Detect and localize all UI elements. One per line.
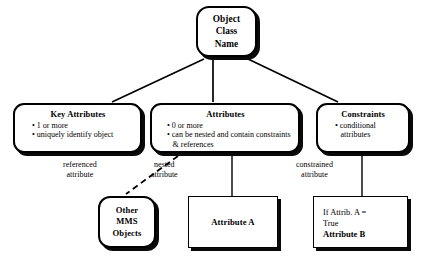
- node-key-attributes[interactable]: Key Attributes • 1 or more • uniquely id…: [13, 103, 142, 153]
- bullet-item: • 1 or more: [32, 121, 133, 131]
- bullet-item: • uniquely identify object: [32, 130, 133, 140]
- node-other-mms-objects-content: Other MMS Objects: [100, 198, 154, 246]
- edge-label-referenced-attribute-line-1: referenced: [63, 160, 97, 170]
- edge-label-nested-attribute-line-2: attribute: [151, 170, 178, 180]
- node-object-class-name-line-1: Object: [198, 13, 255, 25]
- bullet-item: • can be nested and contain constraints …: [167, 130, 291, 149]
- bullet-item: • conditional attributes: [335, 121, 402, 140]
- node-other-mms-objects-line-2: MMS: [100, 216, 154, 227]
- node-object-class-name-line-2: Class: [198, 25, 255, 37]
- bullet-glyph: •: [167, 130, 170, 139]
- bullet-glyph: •: [32, 130, 35, 139]
- edge-label-nested-attribute-line-1: nested: [151, 160, 178, 170]
- node-attributes[interactable]: Attributes • 0 or more • can be nested a…: [150, 103, 300, 153]
- node-other-mms-objects[interactable]: Other MMS Objects: [98, 196, 156, 248]
- node-object-class-name-content: Object Class Name: [198, 8, 255, 55]
- node-object-class-name-line-3: Name: [198, 38, 255, 50]
- bullet-text: 0 or more: [172, 121, 203, 130]
- bullet-glyph: •: [335, 121, 338, 130]
- node-attribute-a[interactable]: Attribute A: [188, 196, 278, 248]
- diagram-canvas: Object Class Name Key Attributes • 1 or …: [0, 0, 426, 262]
- node-key-attributes-content: Key Attributes • 1 or more • uniquely id…: [15, 105, 140, 151]
- bullet-text: conditional attributes: [340, 121, 376, 140]
- node-attribute-b-title: Attribute B: [323, 229, 407, 241]
- node-object-class-name[interactable]: Object Class Name: [196, 6, 257, 57]
- edge-label-constrained-attribute: constrained attribute: [296, 160, 333, 180]
- edge-label-referenced-attribute: referenced attribute: [63, 160, 97, 180]
- node-attribute-a-content: Attribute A: [189, 197, 277, 247]
- bullet-item: • 0 or more: [167, 121, 291, 131]
- node-attributes-title: Attributes: [160, 109, 291, 120]
- node-attribute-b-content: If Attrib. A = True Attribute B: [314, 197, 407, 247]
- bullet-text: uniquely identify object: [37, 130, 113, 139]
- node-constraints-title: Constraints: [324, 109, 402, 120]
- bullet-text: can be nested and contain constraints & …: [172, 130, 291, 149]
- node-attributes-bullets: • 0 or more • can be nested and contain …: [160, 121, 291, 150]
- bullet-glyph: •: [167, 121, 170, 130]
- node-attribute-a-title: Attribute A: [189, 217, 277, 228]
- node-attributes-content: Attributes • 0 or more • can be nested a…: [152, 105, 298, 151]
- node-other-mms-objects-line-1: Other: [100, 205, 154, 216]
- node-attribute-b-condition-line-1: If Attrib. A =: [323, 207, 407, 218]
- node-attribute-b-condition-line-2: True: [323, 218, 407, 229]
- edge-label-referenced-attribute-line-2: attribute: [63, 170, 97, 180]
- edge-root-to-key-attributes: [112, 59, 204, 102]
- node-constraints-content: Constraints • conditional attributes: [318, 105, 408, 151]
- node-constraints[interactable]: Constraints • conditional attributes: [316, 103, 410, 153]
- edge-label-constrained-attribute-line-2: attribute: [296, 170, 333, 180]
- edge-label-nested-attribute: nested attribute: [151, 160, 178, 180]
- node-attribute-b[interactable]: If Attrib. A = True Attribute B: [313, 196, 408, 248]
- node-constraints-bullets: • conditional attributes: [324, 121, 402, 140]
- node-other-mms-objects-line-3: Objects: [100, 228, 154, 239]
- edge-root-to-constraints: [248, 59, 338, 102]
- node-key-attributes-bullets: • 1 or more • uniquely identify object: [23, 121, 133, 140]
- bullet-glyph: •: [32, 121, 35, 130]
- edge-label-constrained-attribute-line-1: constrained: [296, 160, 333, 170]
- node-key-attributes-title: Key Attributes: [23, 109, 133, 120]
- bullet-text: 1 or more: [37, 121, 68, 130]
